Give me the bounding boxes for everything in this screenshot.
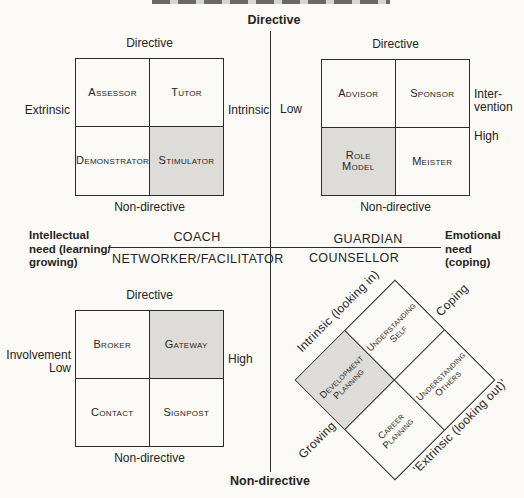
networker-matrix: Directive Non-directive Involvement Low … [75, 310, 224, 447]
axis-non-directive-label: Non-directive [210, 474, 330, 488]
cell-sponsor: Sponsor [396, 60, 470, 128]
coach-matrix: Directive Non-directive Extrinsic Intrin… [75, 58, 224, 196]
guardian-matrix-bottom-axis: Non-directive [291, 200, 500, 214]
cell-meister: Meister [396, 128, 470, 196]
networker-matrix-grid: Broker Gateway Contact Signpost [75, 310, 224, 447]
cell-tutor: Tutor [150, 59, 223, 127]
counsellor-diamond-grid: Development Planning Understanding Self … [295, 280, 496, 481]
networker-matrix-high-axis: High [228, 352, 253, 366]
axis-directive-label: Directive [214, 13, 334, 27]
quadrant-name-coach: COACH [137, 230, 257, 244]
axis-emotional-need-label: Emotional need (coping) [445, 229, 501, 270]
diamond-edge-coping: Coping [433, 281, 471, 319]
guardian-matrix: Directive Non-directive Low Inter- venti… [321, 59, 470, 196]
coach-matrix-bottom-axis: Non-directive [45, 200, 254, 214]
cell-signpost: Signpost [150, 379, 224, 447]
scan-artifact [152, 0, 390, 4]
guardian-matrix-low-axis: Low [280, 102, 302, 116]
guardian-matrix-high-axis: High [474, 129, 499, 143]
quadrant-name-counsellor: COUNSELLOR [294, 251, 414, 265]
guardian-matrix-grid: Advisor Sponsor Role Model Meister [321, 59, 470, 196]
cell-contact: Contact [76, 379, 150, 447]
coach-matrix-extrinsic-axis: Extrinsic [0, 103, 70, 117]
cell-stimulator: Stimulator [150, 127, 223, 195]
cell-broker: Broker [76, 311, 150, 379]
guardian-matrix-top-axis: Directive [291, 37, 500, 51]
mentoring-roles-diagram: Directive Non-directive Intellectual nee… [0, 0, 524, 498]
networker-matrix-involvement-axis: Involvement Low [6, 349, 71, 374]
coach-matrix-intrinsic-axis: Intrinsic [228, 103, 269, 117]
cell-gateway: Gateway [150, 311, 224, 379]
cell-advisor: Advisor [322, 60, 396, 128]
quadrant-name-networker-facilitator: NETWORKER/FACILITATOR [112, 252, 272, 266]
axis-intellectual-need-label: Intellectual need (learning/ growing) [29, 229, 111, 270]
horizontal-axis-line [108, 247, 441, 248]
guardian-matrix-intervention-axis: Inter- vention [474, 88, 513, 114]
cell-demonstrator: Demonstrator [76, 127, 150, 195]
coach-matrix-grid: Assessor Tutor Demonstrator Stimulator [75, 58, 224, 196]
networker-matrix-bottom-axis: Non-directive [45, 451, 254, 465]
networker-matrix-top-axis: Directive [45, 288, 254, 302]
quadrant-name-guardian: GUARDIAN [308, 232, 428, 246]
coach-matrix-top-axis: Directive [45, 36, 254, 50]
cell-assessor: Assessor [76, 59, 150, 127]
cell-role-model: Role Model [322, 128, 396, 196]
diamond-edge-growing: Growing [296, 419, 339, 462]
